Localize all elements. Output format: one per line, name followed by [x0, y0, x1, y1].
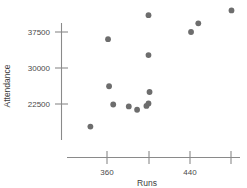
data-point [88, 124, 94, 130]
y-axis-title: Attendance [2, 64, 12, 107]
data-point [134, 107, 140, 113]
scatter-plot-figure: 37500 30000 22500 Attendance 360 440 Run… [0, 0, 247, 188]
x-axis-title: Runs [137, 178, 157, 188]
plot-canvas: 37500 30000 22500 Attendance 360 440 Run… [0, 0, 247, 188]
data-point [110, 102, 116, 108]
y-tick-label-37500: 37500 [28, 28, 51, 37]
x-tick-label-440: 440 [183, 168, 197, 177]
y-tick-label-22500: 22500 [28, 100, 51, 109]
data-point [146, 12, 152, 18]
data-point [146, 52, 152, 58]
data-point [105, 36, 111, 42]
data-point [147, 89, 153, 95]
data-point [146, 101, 152, 107]
data-point [126, 104, 132, 110]
y-tick-label-30000: 30000 [28, 64, 51, 73]
x-tick-label-360: 360 [100, 168, 114, 177]
data-point [106, 83, 112, 89]
data-point-layer [88, 7, 235, 129]
data-point [195, 20, 201, 26]
data-point [188, 29, 194, 35]
data-point [229, 7, 235, 13]
